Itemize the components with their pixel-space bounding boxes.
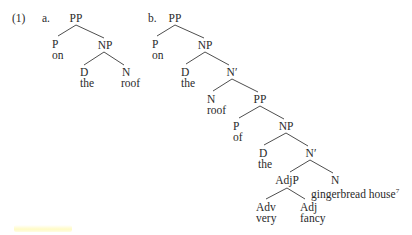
node-b-pp2: PP [254,93,267,105]
edge-b-adjp-adv [266,188,287,199]
word-a-roof: roof [121,77,140,89]
word-gingerbread-house-text: gingerbread house [311,188,396,200]
edge-a-np-n [104,52,124,65]
word-b-roof: roof [207,104,226,116]
edge-b-np-nbar [205,52,229,65]
node-a-np: NP [98,39,113,51]
edge-b-pp2-p2 [239,106,260,118]
edge-b-nbar-pp [232,79,258,92]
edge-b-nbar2-adjp [290,160,310,172]
edge-b-np2-d2 [264,133,286,145]
node-b-pp: PP [169,12,182,24]
word-a-on: on [52,49,64,61]
edge-b-pp-p [157,25,175,36]
node-b-adjp: AdjP [275,174,299,186]
word-b-of: of [233,131,243,143]
text-highlight [14,225,72,232]
word-b-fancy: fancy [300,212,326,224]
word-a-the: the [80,77,94,89]
edge-b-np-d [186,52,205,64]
tree-a-label: a. [42,12,50,24]
node-b-np2: NP [279,120,294,132]
word-b-gingerbread-house: gingerbread house7 [311,185,399,200]
word-b-the: the [181,77,195,89]
word-b-very: very [256,212,276,224]
node-b-np: NP [198,39,213,51]
edge-b-pp2-np2 [260,106,284,119]
tree-b-label: b. [148,12,157,24]
edge-a-pp-p [58,25,76,36]
edge-b-adjp-adj [287,188,305,199]
word-b-on: on [152,49,164,61]
edge-b-np2-nbar2 [286,133,308,146]
node-a-pp: PP [70,12,83,24]
word-b-the2: the [258,158,272,170]
node-b-nbar2: N′ [306,147,317,159]
edge-a-np-d [84,52,104,65]
edge-b-pp-np [175,25,204,38]
edge-a-pp-np [76,25,104,38]
edge-b-nbar-n [213,79,232,91]
node-b-nbar: N′ [227,66,238,78]
edge-b-nbar2-n2 [310,160,333,173]
example-number: (1) [12,12,25,24]
footnote-marker[interactable]: 7 [396,187,400,195]
